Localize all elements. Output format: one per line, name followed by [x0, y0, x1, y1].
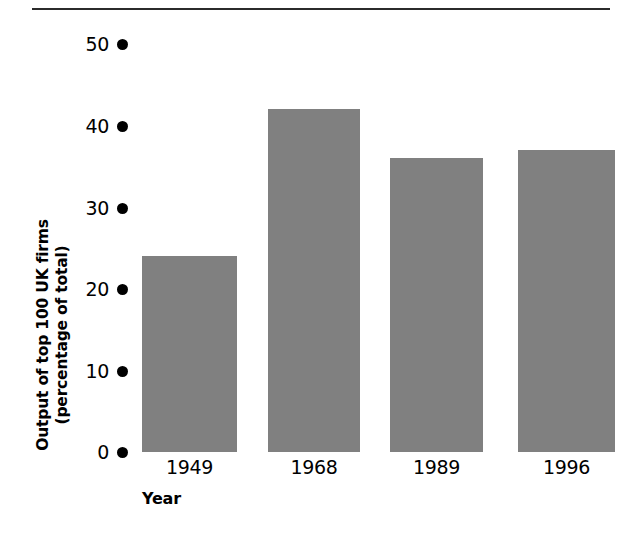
y-axis-tick-label-20: 20	[86, 280, 109, 299]
x-axis-tick-label-1949: 1949	[142, 456, 237, 478]
y-axis-tick-label-10: 10	[86, 362, 109, 381]
bar-1996[interactable]	[518, 150, 615, 452]
y-axis-tick-dot-icon	[117, 284, 128, 295]
x-axis-tick-label-1989: 1989	[390, 456, 483, 478]
bar-1949[interactable]	[142, 256, 237, 452]
y-axis-tick-label-40: 40	[86, 117, 109, 136]
y-axis-tick-label-0: 0	[97, 443, 109, 462]
bar-chart-figure: Output of top 100 UK firms (percentage o…	[0, 0, 637, 539]
y-axis-tick-dot-icon	[117, 39, 128, 50]
x-axis-tick-label-1996: 1996	[518, 456, 615, 478]
y-axis-tick-dot-icon	[117, 203, 128, 214]
y-axis-tick-dot-icon	[117, 366, 128, 377]
plot-area: 50 40 30 20 10 0 1949 1968 19	[0, 0, 637, 539]
x-axis-tick-label-1968: 1968	[268, 456, 360, 478]
y-axis-tick-label-30: 30	[86, 199, 109, 218]
x-axis-label: Year	[142, 489, 242, 508]
y-axis-tick-label-50: 50	[86, 35, 109, 54]
y-axis-tick-dot-icon	[117, 447, 128, 458]
y-axis-tick-dot-icon	[117, 121, 128, 132]
bar-1989[interactable]	[390, 158, 483, 452]
bar-1968[interactable]	[268, 109, 360, 452]
